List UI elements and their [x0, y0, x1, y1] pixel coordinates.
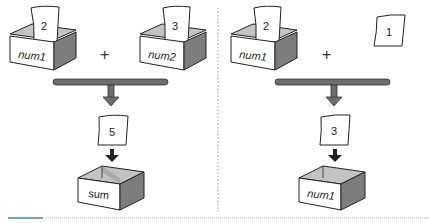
paper-value: 1 — [386, 26, 392, 38]
left-panel: 2 num1 + 3 num2 — [10, 6, 206, 210]
assignment-diagram: 2 num1 + 3 num2 — [0, 0, 429, 223]
paper-value: 2 — [41, 20, 47, 32]
value-paper: 2 — [31, 6, 59, 42]
paper-value: 3 — [331, 125, 337, 137]
paper-value: 5 — [109, 126, 115, 138]
paper-value: 3 — [172, 20, 178, 32]
down-arrow-icon — [328, 149, 342, 162]
right-panel: 2 num1 + 1 3 — [231, 6, 405, 210]
variable-box-num1-target: num1 — [299, 166, 365, 210]
box-label: sum — [88, 187, 110, 201]
variable-box-num2: 3 num2 — [140, 6, 206, 70]
down-arrow-icon — [103, 97, 119, 106]
variable-box-sum: sum — [78, 166, 144, 210]
combine-bar — [53, 79, 168, 106]
combine-bar — [275, 79, 390, 106]
bottom-rule — [8, 217, 429, 219]
literal-paper: 1 — [374, 15, 405, 46]
paper-value: 2 — [263, 20, 269, 32]
plus-operator: + — [100, 46, 109, 63]
variable-box-num1: 2 num1 — [231, 6, 297, 70]
plus-operator: + — [322, 46, 331, 63]
value-paper: 2 — [254, 6, 281, 42]
down-arrow-icon — [105, 149, 119, 162]
variable-box-num1: 2 num1 — [10, 6, 76, 70]
result-paper: 3 — [320, 115, 350, 145]
result-paper: 5 — [98, 115, 128, 145]
value-paper: 3 — [163, 6, 190, 42]
down-arrow-icon — [326, 97, 342, 106]
